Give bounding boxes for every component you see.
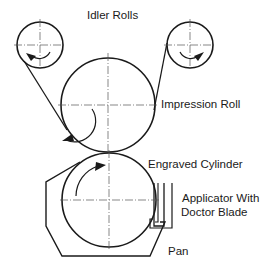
applicator-cup xyxy=(150,183,172,228)
label-applicator-line1: Applicator With xyxy=(182,192,259,204)
pan-outline xyxy=(46,162,165,256)
diagram-drawing xyxy=(0,0,275,272)
right-idler-arrow-icon xyxy=(194,52,204,61)
impression-arrow-icon xyxy=(62,134,74,141)
label-idler-rolls: Idler Rolls xyxy=(87,9,138,21)
label-pan: Pan xyxy=(168,245,188,257)
gravure-press-diagram: Idler Rolls Impression Roll Engraved Cyl… xyxy=(0,0,275,272)
label-impression-roll: Impression Roll xyxy=(161,98,240,110)
cylinder-arrow-icon xyxy=(95,162,106,171)
left-idler-arrow-icon xyxy=(26,53,36,61)
web-left xyxy=(24,61,67,130)
label-engraved-cylinder: Engraved Cylinder xyxy=(148,158,243,170)
label-applicator-line2: Doctor Blade xyxy=(181,206,247,218)
